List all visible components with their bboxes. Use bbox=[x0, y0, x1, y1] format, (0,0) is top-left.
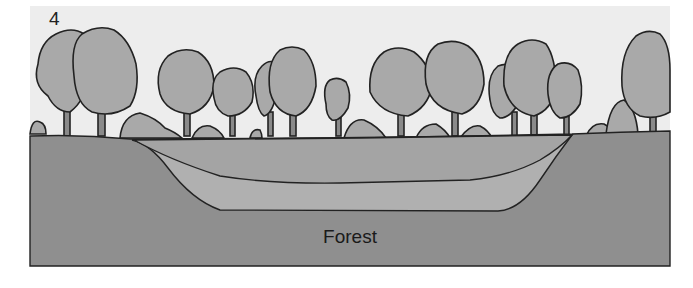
panel-number: 4 bbox=[49, 8, 60, 30]
stage-label: Forest bbox=[290, 226, 410, 248]
